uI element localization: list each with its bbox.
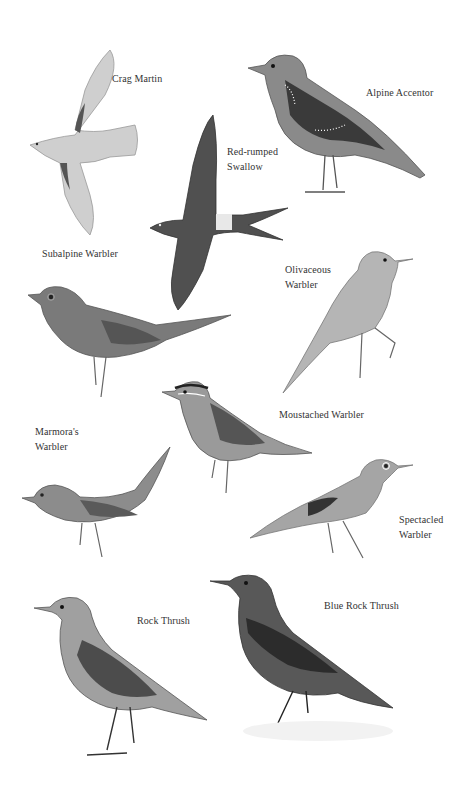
label-olivaceous-warbler: Olivaceous Warbler <box>285 263 331 292</box>
label-crag-martin: Crag Martin <box>112 72 162 87</box>
marmoras-warbler-illustration <box>20 445 175 575</box>
label-spectacled-warbler: Spectacled Warbler <box>399 513 443 542</box>
label-rock-thrush: Rock Thrush <box>137 614 190 629</box>
bird-plate: Crag Martin Alpine Accentor Red-rumped S… <box>0 0 469 806</box>
label-alpine-accentor: Alpine Accentor <box>366 86 433 101</box>
label-red-rumped-swallow: Red-rumped Swallow <box>227 145 278 174</box>
label-moustached-warbler: Moustached Warbler <box>279 408 364 423</box>
label-subalpine-warbler: Subalpine Warbler <box>42 247 118 262</box>
label-blue-rock-thrush: Blue Rock Thrush <box>324 599 399 614</box>
spectacled-warbler-illustration <box>248 458 418 573</box>
label-marmoras-warbler: Marmora's Warbler <box>35 425 79 454</box>
